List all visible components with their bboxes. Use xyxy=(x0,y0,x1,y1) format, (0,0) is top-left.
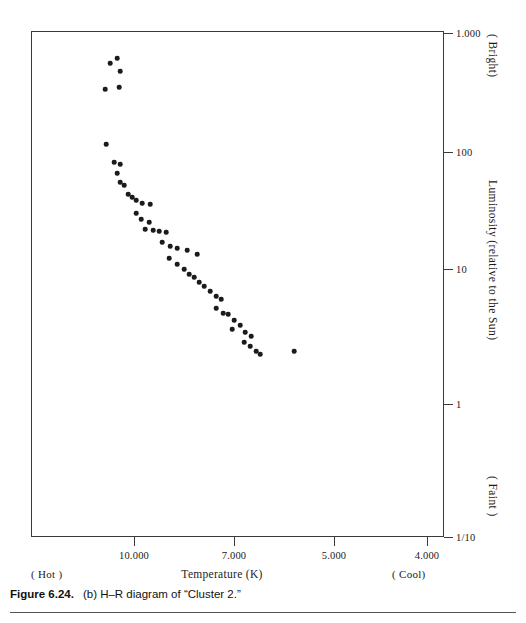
data-point xyxy=(248,344,253,349)
y-axis-tick-label: 100 xyxy=(456,147,472,158)
data-point xyxy=(151,228,156,233)
y-axis-tick-label: 1 xyxy=(456,399,461,410)
data-point xyxy=(104,142,109,147)
data-point xyxy=(187,272,192,277)
data-point xyxy=(148,202,153,207)
data-point xyxy=(249,334,254,339)
data-point xyxy=(143,227,148,232)
x-axis-tick-mark xyxy=(134,537,135,546)
data-point xyxy=(292,349,297,354)
data-point xyxy=(117,85,122,90)
figure-root: 1.0001001011/10 10.0007.0005.0004.000 Te… xyxy=(0,0,526,623)
data-point xyxy=(118,162,123,167)
data-point xyxy=(108,61,113,66)
y-axis-tick-mark xyxy=(444,33,453,34)
x-axis-hot-annotation: ( Hot ) xyxy=(31,568,62,580)
figure-caption: Figure 6.24.(b) H–R diagram of “Cluster … xyxy=(10,588,510,600)
caption-divider xyxy=(10,612,516,613)
data-point xyxy=(122,183,127,188)
data-point xyxy=(221,311,226,316)
data-point xyxy=(197,280,202,285)
plot-frame xyxy=(31,31,444,537)
data-point xyxy=(195,252,200,257)
y-axis-tick-mark xyxy=(444,404,453,405)
data-point xyxy=(168,244,173,249)
x-axis-tick-label: 4.000 xyxy=(415,550,440,561)
y-axis-tick-mark xyxy=(444,269,453,270)
x-axis-title: Temperature (K) xyxy=(0,568,444,580)
scatter-plot-area xyxy=(32,32,443,536)
data-point xyxy=(182,267,187,272)
y-axis-tick-mark xyxy=(444,152,453,153)
data-point xyxy=(258,352,263,357)
data-point xyxy=(134,198,139,203)
data-point xyxy=(103,87,108,92)
y-axis-tick-mark xyxy=(444,537,453,538)
data-point xyxy=(115,56,120,61)
data-point xyxy=(202,284,207,289)
x-axis-tick-label: 10.000 xyxy=(119,550,149,561)
data-point xyxy=(243,330,248,335)
data-point xyxy=(175,246,180,251)
data-point xyxy=(167,256,172,261)
data-point xyxy=(185,248,190,253)
data-point xyxy=(112,160,117,165)
x-axis-tick-mark xyxy=(234,537,235,546)
y-axis-title: Luminosity (relative to the Sun) xyxy=(487,180,499,340)
data-point xyxy=(164,230,169,235)
data-point xyxy=(139,217,144,222)
figure-number: Figure 6.24. xyxy=(10,588,74,600)
x-axis-tick-label: 7.000 xyxy=(222,550,247,561)
x-axis-tick-mark xyxy=(334,537,335,546)
data-point xyxy=(219,297,224,302)
x-axis-tick-mark xyxy=(427,537,428,546)
data-point xyxy=(115,171,120,176)
y-axis-faint-annotation: ( Faint ) xyxy=(487,476,499,517)
data-point xyxy=(118,69,123,74)
x-axis-cool-annotation: ( Cool) xyxy=(392,568,426,580)
data-point xyxy=(242,340,247,345)
y-axis-tick-label: 1.000 xyxy=(456,28,481,39)
data-point xyxy=(134,211,139,216)
data-point xyxy=(230,327,235,332)
data-point xyxy=(238,323,243,328)
data-point xyxy=(214,294,219,299)
data-point xyxy=(160,240,165,245)
x-axis-tick-label: 5.000 xyxy=(322,550,347,561)
data-point xyxy=(157,229,162,234)
figure-caption-text: (b) H–R diagram of “Cluster 2.” xyxy=(83,588,241,600)
data-point xyxy=(226,312,231,317)
y-axis-tick-label: 10 xyxy=(456,264,467,275)
y-axis-tick-label: 1/10 xyxy=(456,532,475,543)
data-point xyxy=(208,289,213,294)
data-point xyxy=(140,201,145,206)
data-point xyxy=(147,220,152,225)
y-axis-bright-annotation: ( Bright) xyxy=(487,34,499,78)
data-point xyxy=(214,306,219,311)
data-point xyxy=(175,262,180,267)
data-point xyxy=(232,318,237,323)
data-point xyxy=(192,275,197,280)
